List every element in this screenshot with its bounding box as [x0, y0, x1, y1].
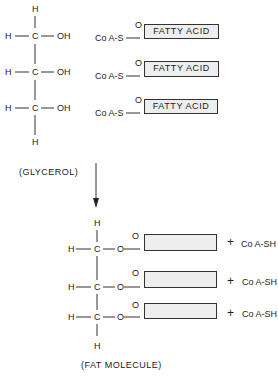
- fatty-acid-box: FATTY ACID: [144, 99, 218, 114]
- atom-c: C: [94, 312, 101, 322]
- atom-h: H: [5, 67, 12, 77]
- fatty-acid-chain-box: [144, 234, 217, 251]
- arrow-down-icon: [93, 198, 99, 208]
- atom-c: C: [94, 282, 101, 292]
- carbonyl-o: O: [132, 231, 139, 241]
- atom-c: C: [32, 31, 39, 41]
- fat-molecule-label: (FAT MOLECULE): [81, 360, 162, 370]
- atom-h: H: [68, 244, 75, 254]
- plus-sign: +: [227, 276, 234, 286]
- carbonyl-o: O: [135, 58, 142, 68]
- atom-h: H: [68, 282, 75, 292]
- carbonyl-o: O: [135, 20, 142, 30]
- atom-c: C: [94, 244, 101, 254]
- coa-sh-label: Co A-SH: [242, 277, 277, 287]
- plus-sign: +: [227, 308, 234, 318]
- carbonyl-o: O: [135, 95, 142, 105]
- atom-o: O: [117, 312, 124, 322]
- carbonyl-o: O: [132, 268, 139, 278]
- atom-c: C: [32, 67, 39, 77]
- coa-sh-label: Co A-SH: [242, 309, 277, 319]
- atom-h: H: [32, 4, 39, 14]
- fatty-acid-chain-box: [144, 271, 217, 288]
- fatty-acid-chain-box: [144, 303, 217, 319]
- bond-lines: [0, 0, 278, 378]
- atom-h: H: [94, 341, 101, 351]
- atom-c: C: [32, 103, 39, 113]
- atom-h: H: [94, 218, 101, 228]
- fatty-acid-box: FATTY ACID: [144, 24, 219, 39]
- atom-o: O: [117, 244, 124, 254]
- atom-h: H: [68, 312, 75, 322]
- glycerol-label: (GLYCEROL): [19, 167, 78, 177]
- coa-s-label: Co A-S: [95, 108, 124, 118]
- coa-s-label: Co A-S: [95, 71, 124, 81]
- atom-h: H: [5, 31, 12, 41]
- atom-h: H: [5, 103, 12, 113]
- carbonyl-o: O: [132, 300, 139, 310]
- atom-o: O: [117, 282, 124, 292]
- group-oh: OH: [57, 103, 71, 113]
- plus-sign: +: [227, 237, 234, 247]
- coa-sh-label: Co A-SH: [241, 239, 276, 249]
- atom-h: H: [32, 137, 39, 147]
- group-oh: OH: [57, 67, 71, 77]
- fatty-acid-box: FATTY ACID: [144, 61, 219, 77]
- coa-s-label: Co A-S: [95, 33, 124, 43]
- group-oh: OH: [57, 31, 71, 41]
